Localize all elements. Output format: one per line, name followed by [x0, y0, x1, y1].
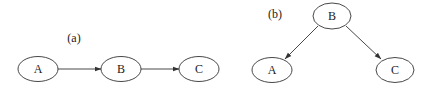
node-b: B [101, 57, 141, 82]
node-b-label: B [328, 9, 336, 23]
diagram-canvas: (a) A B C (b) B A C [0, 0, 428, 88]
panel-b-label: (b) [268, 7, 282, 21]
node-a: A [252, 58, 292, 83]
node-b-label: B [117, 62, 125, 76]
panel-b: (b) B A C [252, 3, 414, 83]
node-a: A [18, 57, 58, 82]
edge-b-to-c [346, 26, 381, 59]
node-c-label: C [195, 62, 203, 76]
node-c: C [376, 58, 414, 83]
node-c: C [179, 57, 219, 82]
node-a-label: A [268, 63, 277, 77]
edge-b-to-a [285, 26, 318, 59]
panel-a-label: (a) [67, 31, 80, 45]
panel-a: (a) A B C [18, 31, 219, 82]
node-b: B [313, 3, 351, 29]
node-c-label: C [391, 63, 399, 77]
node-a-label: A [34, 62, 43, 76]
